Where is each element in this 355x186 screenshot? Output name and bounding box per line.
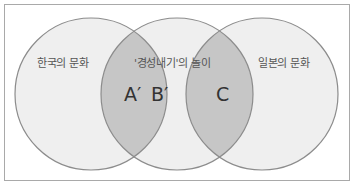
region-label-b-prime: B′	[151, 83, 168, 105]
set-label-middle: '경성내기'의 놀이	[134, 54, 211, 70]
region-label-a-prime: A′	[124, 83, 141, 105]
set-label-right: 일본의 문화	[258, 54, 310, 70]
venn-diagram	[0, 0, 355, 186]
region-label-c: C	[216, 83, 229, 105]
set-label-left: 한국의 문화	[37, 54, 89, 70]
